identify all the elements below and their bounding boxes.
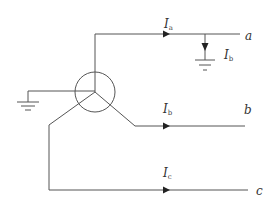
phase-c-conductor (49, 92, 248, 194)
terminal-c: c (256, 184, 263, 198)
label-fault-current: Ib (223, 48, 234, 63)
label-ia: Ia (163, 17, 173, 32)
terminal-a: a (245, 29, 252, 43)
three-phase-fault-diagram: Ia Ib Ib Ic a b c (0, 0, 273, 206)
ground-symbol-icon (17, 102, 39, 110)
ground-symbol-icon (195, 60, 215, 70)
arrow-fault-icon (202, 43, 209, 51)
fault-ground-tap (195, 34, 215, 70)
terminal-b: b (244, 103, 252, 117)
label-ib: Ib (162, 102, 173, 117)
arrow-ib-icon (163, 123, 170, 130)
arrow-ic-icon (163, 187, 170, 194)
label-ic: Ic (162, 166, 172, 181)
phase-a-conductor (95, 31, 240, 93)
